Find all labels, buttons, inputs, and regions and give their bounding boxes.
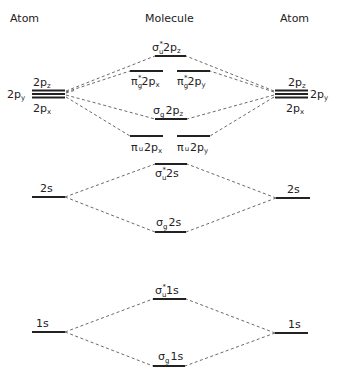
header-atom-right: Atom bbox=[280, 12, 309, 25]
label-right-1s: 1s bbox=[288, 318, 301, 331]
label-left-1s: 1s bbox=[36, 317, 49, 330]
mo-diagram: Atom Molecule Atom bbox=[0, 0, 337, 374]
label-left-2pz: 2pz bbox=[33, 76, 51, 90]
label-sigma-g-2s: σg2s bbox=[156, 216, 181, 231]
label-left-2px: 2px bbox=[33, 102, 51, 116]
label-right-2pz: 2pz bbox=[288, 76, 306, 90]
label-sigma-u-star-1s: σu*1s bbox=[155, 283, 179, 299]
right-2p-levels bbox=[275, 91, 308, 98]
label-sigma-u-star-2s: σu*2s bbox=[155, 166, 179, 182]
header-atom-left: Atom bbox=[10, 12, 39, 25]
label-right-2s: 2s bbox=[287, 183, 300, 196]
label-pi-g-star-2py: πg*2py bbox=[177, 74, 206, 90]
label-sigma-g-2pz: σg2pz bbox=[153, 104, 183, 119]
label-sigma-u-star-2pz: σu*2pz bbox=[152, 40, 181, 56]
left-2p-levels bbox=[32, 91, 65, 98]
label-sigma-g-1s: σg1s bbox=[158, 350, 183, 365]
label-left-2py: 2py bbox=[7, 88, 25, 102]
label-pi-u-2py: πu2py bbox=[177, 141, 208, 155]
label-right-2py: 2py bbox=[310, 88, 328, 102]
label-left-2s: 2s bbox=[40, 182, 53, 195]
correlation-lines bbox=[65, 56, 276, 366]
label-pi-g-star-2px: πg*2px bbox=[131, 74, 160, 90]
label-right-2px: 2px bbox=[286, 102, 304, 116]
label-pi-u-2px: πu2px bbox=[131, 141, 162, 155]
header-molecule: Molecule bbox=[145, 12, 194, 25]
